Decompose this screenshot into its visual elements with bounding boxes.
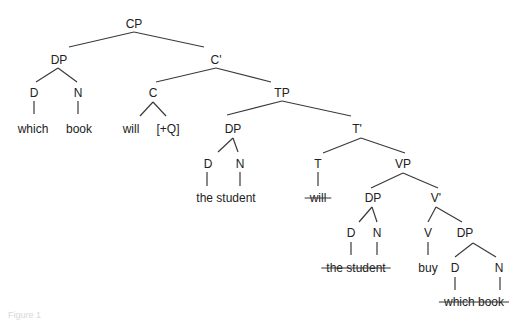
tree-edge xyxy=(428,207,436,222)
tree-edge xyxy=(134,32,204,47)
tree-edge xyxy=(218,138,233,152)
tree-edge xyxy=(227,101,282,115)
node-c: C xyxy=(149,86,158,100)
node-d2: D xyxy=(204,157,213,171)
tree-edge xyxy=(140,102,153,116)
tree-edges xyxy=(34,32,500,290)
tree-edge xyxy=(323,138,361,153)
tree-edge xyxy=(473,243,496,257)
tree-edge xyxy=(371,173,403,188)
node-tp: TP xyxy=(274,86,289,100)
tree-edge xyxy=(403,173,438,188)
node-dp3: DP xyxy=(365,191,382,205)
leaf-q: [+Q] xyxy=(156,122,179,136)
leaf-book: book xyxy=(66,122,93,136)
tree-edge xyxy=(58,68,77,82)
node-n4: N xyxy=(495,261,504,275)
tree-edge xyxy=(282,101,351,116)
tree-edge xyxy=(455,243,473,257)
tree-nodes: CPDPC'DNCTPDPT'DNTVPDPV'DNVDPDN xyxy=(30,17,504,275)
node-cbar: C' xyxy=(211,53,222,67)
leaf-the-student: the student xyxy=(196,191,256,205)
leaf-which: which xyxy=(17,122,49,136)
tree-edge xyxy=(69,32,134,47)
tree-edge xyxy=(359,207,372,222)
tree-edge xyxy=(372,207,377,222)
tree-edge xyxy=(436,207,462,222)
figure-caption: Figure 1 xyxy=(8,310,41,320)
node-n2: N xyxy=(236,157,245,171)
tree-edge xyxy=(153,102,166,116)
node-vp: VP xyxy=(395,157,411,171)
tree-edge xyxy=(233,138,238,152)
leaf-will: will xyxy=(122,122,140,136)
tree-leaves: whichbookwill[+Q]the studentwillthe stud… xyxy=(17,122,509,309)
leaf-buy: buy xyxy=(418,261,437,275)
tree-edge xyxy=(36,68,58,82)
node-n1: N xyxy=(74,86,83,100)
node-d1: D xyxy=(30,86,39,100)
node-n3: N xyxy=(373,226,382,240)
node-d3: D xyxy=(347,226,356,240)
node-dp1: DP xyxy=(51,53,68,67)
syntax-tree-diagram: CPDPC'DNCTPDPT'DNTVPDPV'DNVDPDN whichboo… xyxy=(0,0,526,322)
node-cp: CP xyxy=(126,17,143,31)
node-d4: D xyxy=(451,261,460,275)
node-dp2: DP xyxy=(225,122,242,136)
node-vbar: V' xyxy=(431,191,441,205)
node-v: V xyxy=(424,226,432,240)
tree-edge xyxy=(156,68,216,82)
node-t: T xyxy=(314,157,322,171)
node-tbar: T' xyxy=(352,122,362,136)
tree-edge xyxy=(361,138,405,153)
node-dp4: DP xyxy=(457,226,474,240)
tree-edge xyxy=(216,68,271,82)
